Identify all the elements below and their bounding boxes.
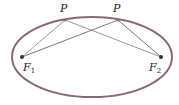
label-p2: P (113, 3, 120, 14)
label-f2-name: F (149, 61, 157, 74)
segment-p1-f2 (65, 20, 161, 57)
label-f2: F2 (149, 62, 161, 75)
ellipse-diagram: P P F1 F2 (0, 0, 179, 105)
label-f1: F1 (23, 62, 35, 75)
label-f1-sub: 1 (31, 67, 35, 75)
label-p1: P (60, 3, 67, 14)
focus-point-2 (159, 55, 163, 59)
ellipse-curve (12, 17, 172, 97)
point-p2 (117, 19, 120, 22)
point-p1 (64, 19, 67, 22)
label-f1-name: F (23, 61, 31, 74)
ellipse-figure (0, 0, 179, 105)
segment-p2-f1 (22, 20, 118, 57)
focus-point-1 (20, 55, 24, 59)
label-f2-sub: 2 (157, 67, 161, 75)
